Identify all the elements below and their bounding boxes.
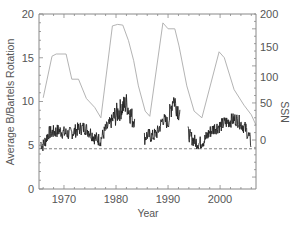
y2-tick-label-100: 100: [260, 71, 278, 83]
y-tick-label-20: 20: [22, 8, 34, 20]
b-field-line: [188, 114, 251, 150]
y2-axis-title: SSN: [279, 101, 291, 123]
axes: [39, 14, 256, 189]
x-tick-label-1970: 1970: [52, 193, 76, 205]
y2-tick-label-200: 200: [260, 8, 278, 20]
y-tick-label-10: 10: [22, 95, 34, 107]
b-field-line: [144, 98, 180, 145]
y-tick-label-15: 15: [22, 52, 34, 64]
y-tick-label-0: 0: [28, 183, 34, 195]
y2-tick-label-0: 0: [260, 134, 266, 146]
x-tick-label-2000: 2000: [208, 193, 232, 205]
x-tick-label-1980: 1980: [104, 193, 128, 205]
plot-area: [39, 23, 256, 151]
y-tick-label-5: 5: [28, 139, 34, 151]
ssn-line: [43, 23, 256, 125]
x-axis-title: Year: [137, 207, 159, 219]
chart: 0 5 10 15 20 0 50 100 150 200 1970 1980 …: [0, 0, 298, 226]
b-field-line: [41, 94, 135, 150]
y2-tick-label-50: 50: [260, 97, 272, 109]
x-tick-label-1990: 1990: [156, 193, 180, 205]
y-axis-title: Average B/Bartels Rotation: [4, 39, 16, 166]
y2-tick-label-150: 150: [260, 41, 278, 53]
